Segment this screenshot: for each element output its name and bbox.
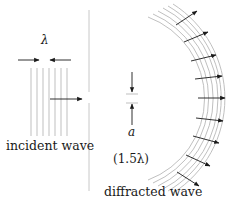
wavelength-label: λ [41,34,49,46]
diffracted-wave-label: diffracted wave [104,186,202,199]
slit-width-marker [126,72,138,125]
diffracted-wavefronts [148,4,225,193]
diffracted-arrow-icon [195,76,222,79]
diffracted-arrow-icon [193,136,219,143]
incident-wavefronts [31,68,67,136]
slit-symbol-label: a [128,126,135,138]
incident-wave-label: incident wave [6,140,94,153]
slit-width-label: (1.5λ) [113,153,149,165]
diffraction-diagram [0,0,237,209]
